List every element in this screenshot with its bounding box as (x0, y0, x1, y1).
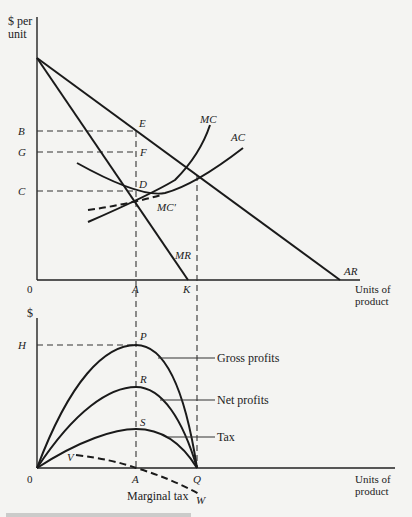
top-y-axis-label-2: unit (8, 27, 27, 41)
label-tax: Tax (217, 430, 235, 444)
bottom-x-axis-label-2: product (355, 485, 389, 497)
tick-A-top: A (131, 283, 139, 295)
tick-Q: Q (193, 473, 201, 485)
point-R: R (139, 373, 147, 385)
tick-B: B (18, 125, 25, 137)
point-S: S (140, 416, 146, 428)
tick-K: K (182, 283, 191, 295)
economics-diagram: $ per unit B G C E F D MC AC MC' MR AR 0… (0, 0, 412, 517)
bottom-x-axis-label-1: Units of (355, 473, 391, 485)
tick-G: G (18, 146, 26, 158)
label-marginal-tax: Marginal tax (127, 489, 188, 503)
point-E: E (138, 117, 146, 129)
ar-curve (37, 58, 340, 280)
label-net-profits: Net profits (217, 393, 269, 407)
point-P: P (139, 330, 147, 342)
tick-C: C (18, 185, 26, 197)
label-gross-profits: Gross profits (217, 351, 280, 365)
top-x-axis-label-2: product (355, 295, 389, 307)
label-MC-prime: MC' (156, 201, 177, 213)
tick-A-bottom: A (131, 473, 139, 485)
label-MR: MR (174, 249, 191, 261)
tick-H: H (17, 339, 27, 351)
bottom-origin: 0 (27, 473, 33, 485)
point-D: D (138, 178, 147, 190)
mr-curve (37, 58, 188, 280)
label-AR: AR (343, 265, 358, 277)
bottom-y-axis-label: $ (27, 306, 33, 320)
point-V: V (67, 451, 75, 463)
net-profits-curve (37, 387, 197, 468)
label-MC: MC (199, 113, 217, 125)
top-x-axis-label-1: Units of (355, 283, 391, 295)
top-y-axis-label-1: $ per (8, 14, 32, 28)
mc-prime-curve (88, 195, 161, 210)
point-W: W (196, 494, 206, 506)
top-origin: 0 (27, 283, 33, 295)
cropped-caption (6, 513, 191, 517)
gross-profits-curve (37, 345, 197, 468)
label-AC: AC (230, 131, 246, 143)
point-F: F (139, 146, 147, 158)
